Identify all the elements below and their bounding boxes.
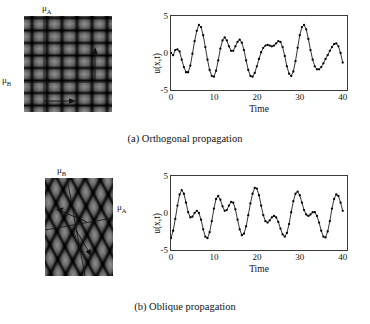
pattern-a-label-mu-b: μB xyxy=(2,75,11,87)
chart-b-xtick-40: 40 xyxy=(338,253,347,262)
chart-a-xtick-40: 40 xyxy=(338,93,347,102)
chart-b-xtick-30: 30 xyxy=(295,253,304,262)
chart-a-xtick-10: 10 xyxy=(209,93,218,102)
chart-a-xtick-30: 30 xyxy=(295,93,304,102)
chart-a-ytick-5: 5 xyxy=(164,12,169,21)
chart-b-ytick-neg5: -5 xyxy=(161,246,169,255)
orthogonal-interference-pattern: μA μB xyxy=(24,16,112,112)
chart-b-plot-area: 5 0 -5 0 10 20 30 40 u(x,t) Time xyxy=(170,175,348,251)
figure-container: μA μB 5 0 -5 0 10 20 30 40 u(x,t) Time xyxy=(0,0,370,324)
chart-b-ytick-0: 0 xyxy=(164,209,169,218)
pattern-b-label-mu-b: μB xyxy=(57,165,66,177)
chart-a-xtick-0: 0 xyxy=(169,93,174,102)
chart-a-ytick-0: 0 xyxy=(164,49,169,58)
chart-b-ytick-5: 5 xyxy=(164,172,169,181)
chart-b-xaxis-title: Time xyxy=(249,264,269,274)
oblique-interference-pattern: μB μA xyxy=(45,178,113,276)
chart-a-ytick-neg5: -5 xyxy=(161,86,169,95)
chart-a: 5 0 -5 0 10 20 30 40 u(x,t) Time xyxy=(148,12,358,124)
pattern-image-orthogonal xyxy=(24,16,112,112)
chart-b: 5 0 -5 0 10 20 30 40 u(x,t) Time xyxy=(148,172,358,284)
chart-b-xtick-10: 10 xyxy=(209,253,218,262)
chart-a-yaxis-title: u(x,t) xyxy=(152,53,162,74)
pattern-b-label-mu-a: μA xyxy=(117,202,127,214)
chart-b-yaxis-title: u(x,t) xyxy=(152,213,162,234)
panel-a: μA μB 5 0 -5 0 10 20 30 40 u(x,t) Time xyxy=(0,0,370,156)
chart-b-xtick-20: 20 xyxy=(252,253,261,262)
chart-a-plot-area: 5 0 -5 0 10 20 30 40 u(x,t) Time xyxy=(170,15,348,91)
panel-b: μB μA 5 0 -5 0 10 20 30 40 u(x,t) Time xyxy=(0,158,370,324)
pattern-a-label-mu-a: μA xyxy=(42,3,52,15)
pattern-image-oblique xyxy=(45,178,113,276)
chart-a-xtick-20: 20 xyxy=(252,93,261,102)
chart-a-xaxis-title: Time xyxy=(249,104,269,114)
caption-a: (a) Orthogonal propagation xyxy=(0,133,370,144)
caption-b: (b) Oblique propagation xyxy=(0,301,370,312)
chart-b-series xyxy=(171,176,347,250)
chart-a-series xyxy=(171,16,347,90)
chart-b-xtick-0: 0 xyxy=(169,253,174,262)
